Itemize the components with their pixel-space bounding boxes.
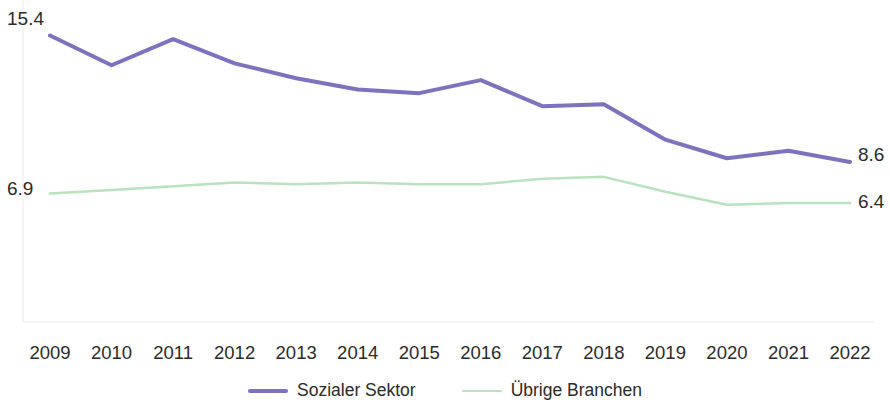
x-tick-label-2013: 2013 bbox=[276, 342, 317, 364]
legend-swatch-icon bbox=[248, 389, 288, 393]
series-line-uebrige-branchen bbox=[50, 177, 850, 205]
x-tick-label-2018: 2018 bbox=[583, 342, 624, 364]
chart-legend: Sozialer SektorÜbrige Branchen bbox=[0, 380, 890, 401]
x-tick-label-2009: 2009 bbox=[29, 342, 70, 364]
x-axis-tick-labels: 2009201020112012201320142015201620172018… bbox=[0, 342, 890, 368]
x-tick-label-2011: 2011 bbox=[153, 342, 193, 364]
x-tick-label-2019: 2019 bbox=[645, 342, 686, 364]
legend-item-sozialer-sektor[interactable]: Sozialer Sektor bbox=[248, 380, 416, 401]
legend-swatch-icon bbox=[462, 390, 502, 392]
x-tick-label-2016: 2016 bbox=[460, 342, 501, 364]
x-tick-label-2020: 2020 bbox=[706, 342, 747, 364]
series-end-value-sozialer-sektor: 8.6 bbox=[858, 144, 884, 166]
series-end-value-uebrige-branchen: 6.4 bbox=[858, 191, 884, 213]
x-tick-label-2021: 2021 bbox=[768, 342, 809, 364]
x-tick-label-2022: 2022 bbox=[829, 342, 870, 364]
series-start-value-sozialer-sektor: 15.4 bbox=[7, 8, 44, 30]
line-chart: 15.4 6.9 8.6 6.4 20092010201120122013201… bbox=[0, 0, 890, 405]
x-tick-label-2014: 2014 bbox=[337, 342, 378, 364]
series-line-sozialer-sektor bbox=[50, 35, 850, 162]
x-tick-label-2010: 2010 bbox=[91, 342, 132, 364]
legend-label: Übrige Branchen bbox=[511, 380, 642, 401]
series-start-value-uebrige-branchen: 6.9 bbox=[7, 178, 33, 200]
legend-item-uebrige-branchen[interactable]: Übrige Branchen bbox=[462, 380, 642, 401]
x-tick-label-2017: 2017 bbox=[522, 342, 563, 364]
x-tick-label-2015: 2015 bbox=[399, 342, 440, 364]
legend-label: Sozialer Sektor bbox=[297, 380, 416, 401]
x-tick-label-2012: 2012 bbox=[214, 342, 255, 364]
